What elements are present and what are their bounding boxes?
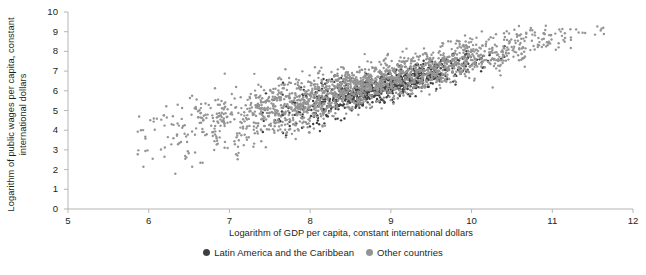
data-point xyxy=(322,118,324,120)
data-point xyxy=(418,58,420,60)
data-point xyxy=(269,107,271,109)
data-point xyxy=(201,162,203,164)
data-point xyxy=(293,99,295,101)
data-point xyxy=(451,71,453,73)
data-point xyxy=(351,108,353,110)
data-point xyxy=(319,130,321,132)
data-point xyxy=(291,92,293,94)
data-point xyxy=(492,37,494,39)
data-point xyxy=(265,100,267,102)
data-point xyxy=(180,118,182,120)
data-point xyxy=(144,137,146,139)
data-point xyxy=(426,80,428,82)
data-point xyxy=(603,33,605,35)
data-point xyxy=(485,43,487,45)
data-point xyxy=(398,60,400,62)
data-point xyxy=(443,57,445,59)
data-point xyxy=(472,68,474,70)
data-point xyxy=(367,96,369,98)
data-point xyxy=(413,79,415,81)
data-point xyxy=(347,89,349,91)
data-point xyxy=(534,31,536,33)
data-point xyxy=(268,128,270,130)
data-point xyxy=(305,121,307,123)
data-point xyxy=(294,114,296,116)
data-point xyxy=(541,38,543,40)
data-point xyxy=(445,71,447,73)
data-point xyxy=(363,91,365,93)
legend-item-other-countries[interactable]: Other countries xyxy=(366,247,443,258)
data-point xyxy=(503,39,505,41)
data-point xyxy=(497,64,499,66)
data-point xyxy=(394,77,396,79)
data-point xyxy=(331,92,333,94)
data-point xyxy=(368,93,370,95)
data-point xyxy=(419,86,421,88)
legend-item-latin-america[interactable]: Latin America and the Caribbean xyxy=(203,247,354,258)
data-point xyxy=(288,128,290,130)
data-point xyxy=(299,114,301,116)
data-point xyxy=(488,38,490,40)
data-point xyxy=(311,92,313,94)
data-point xyxy=(310,84,312,86)
data-point xyxy=(398,89,400,91)
data-point xyxy=(411,92,413,94)
data-point xyxy=(266,112,268,114)
data-point xyxy=(251,106,253,108)
data-point xyxy=(272,112,274,114)
data-point xyxy=(332,106,334,108)
data-point xyxy=(545,25,547,27)
data-point xyxy=(248,96,250,98)
data-point xyxy=(322,90,324,92)
data-point xyxy=(299,99,301,101)
data-point xyxy=(506,46,508,48)
data-point xyxy=(402,70,404,72)
data-point xyxy=(374,92,376,94)
data-point xyxy=(379,79,381,81)
data-point xyxy=(310,104,312,106)
data-point xyxy=(229,121,231,123)
data-point xyxy=(194,134,196,136)
data-point xyxy=(300,82,302,84)
data-point xyxy=(334,112,336,114)
data-point xyxy=(189,97,191,99)
data-point xyxy=(195,127,197,129)
data-point xyxy=(357,105,359,107)
data-point xyxy=(191,95,193,97)
data-point xyxy=(191,130,193,132)
data-point xyxy=(503,32,505,34)
data-point xyxy=(390,91,392,93)
data-point xyxy=(253,125,255,127)
data-point xyxy=(186,141,188,143)
data-point xyxy=(415,75,417,77)
data-point xyxy=(537,46,539,48)
data-point xyxy=(236,132,238,134)
data-point xyxy=(440,54,442,56)
data-point xyxy=(199,112,201,114)
data-point xyxy=(476,65,478,67)
data-point xyxy=(291,100,293,102)
data-point xyxy=(502,51,504,53)
data-point xyxy=(328,112,330,114)
data-point xyxy=(318,95,320,97)
data-point xyxy=(197,116,199,118)
data-point xyxy=(292,117,294,119)
data-point xyxy=(216,143,218,145)
data-point xyxy=(303,109,305,111)
y-tick-label: 2 xyxy=(40,164,58,175)
data-point xyxy=(496,45,498,47)
data-point xyxy=(475,49,477,51)
data-point xyxy=(167,136,169,138)
data-point xyxy=(480,70,482,72)
legend-marker-latin-america xyxy=(203,249,210,256)
data-point xyxy=(237,112,239,114)
data-point xyxy=(218,115,220,117)
data-point xyxy=(532,45,534,47)
data-point xyxy=(377,84,379,86)
data-point xyxy=(458,63,460,65)
data-point xyxy=(337,68,339,70)
data-point xyxy=(348,80,350,82)
data-point xyxy=(255,96,257,98)
data-point xyxy=(344,75,346,77)
data-point xyxy=(352,93,354,95)
